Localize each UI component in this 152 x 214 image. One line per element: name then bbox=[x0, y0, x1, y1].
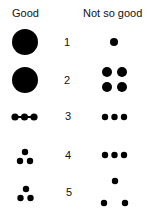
row1-good-large-dot bbox=[12, 29, 38, 55]
row4-good-triangle-dots bbox=[17, 149, 33, 164]
row1-not-so-good-small-dot bbox=[110, 38, 118, 46]
row2-not-so-good-four-dots bbox=[102, 67, 127, 92]
row5-good-triangle-dots bbox=[17, 186, 33, 201]
dot-figures bbox=[0, 0, 152, 214]
row2-good-large-dot bbox=[12, 67, 38, 93]
row3-good-touching-dots bbox=[11, 113, 37, 120]
row4-not-so-good-line-dots bbox=[102, 152, 127, 158]
row5-not-so-good-spread-triangle bbox=[101, 178, 128, 206]
row3-not-so-good-spaced-dots bbox=[102, 114, 127, 120]
